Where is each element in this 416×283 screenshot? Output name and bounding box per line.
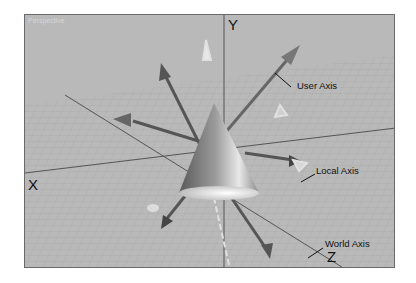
perspective-viewport[interactable]: Perspective	[24, 14, 395, 268]
scene-canvas	[25, 15, 395, 268]
x-axis-label: X	[28, 176, 38, 193]
y-axis-label: Y	[228, 16, 238, 33]
user-axis-callout: User Axis	[297, 80, 337, 91]
z-axis-label: Z	[327, 248, 336, 265]
local-axis-callout: Local Axis	[316, 165, 359, 176]
world-axis-callout: World Axis	[325, 238, 370, 249]
